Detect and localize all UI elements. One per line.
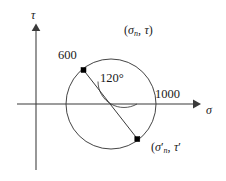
sigma-max-label: 1000 bbox=[155, 88, 180, 101]
lower-point-label: (σ′n, τ′ bbox=[151, 141, 181, 153]
upper-point-close-paren: ) bbox=[149, 23, 153, 37]
lower-point-marker bbox=[135, 137, 140, 142]
tau-axis-label: τ bbox=[31, 9, 35, 21]
lower-point-tau-prime: ′ bbox=[178, 140, 181, 154]
upper-point-sigma-subscript: n bbox=[134, 29, 138, 38]
upper-point-separator: , bbox=[138, 23, 142, 37]
lower-point-separator: , bbox=[168, 140, 172, 154]
mohr-circle-figure: τ σ 600 1000 120° (σn, τ) (σ′n, τ′ bbox=[0, 0, 226, 181]
upper-point-marker bbox=[81, 68, 86, 73]
mohr-circle-svg bbox=[0, 0, 226, 181]
tau-axis-arrowhead bbox=[32, 24, 41, 32]
sigma-min-label: 600 bbox=[58, 49, 77, 62]
angle-label: 120° bbox=[100, 72, 124, 85]
lower-point-sigma-subscript: n bbox=[164, 146, 168, 155]
upper-point-label: (σn, τ) bbox=[124, 24, 153, 36]
sigma-axis-label: σ bbox=[206, 104, 212, 116]
sigma-axis-arrowhead bbox=[193, 100, 201, 109]
